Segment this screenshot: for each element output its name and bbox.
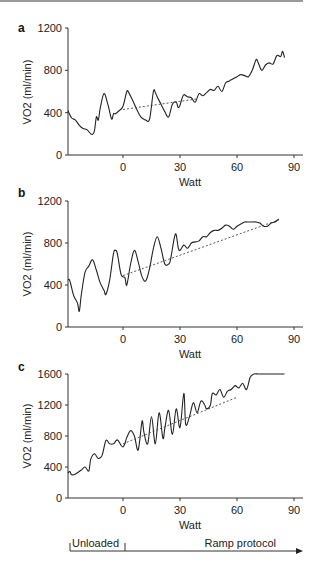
panel-c: c 0 400 800 1200 1600 0 30 60 90 Watt VO… xyxy=(18,360,303,531)
unloaded-label: Unloaded xyxy=(72,537,119,549)
ytick-c-1600: 1600 xyxy=(38,368,62,380)
xtick-a-30: 30 xyxy=(174,161,186,173)
xtick-b-60: 60 xyxy=(231,333,243,345)
panel-a: a 0 400 800 1200 0 30 60 90 Watt VO2 (ml… xyxy=(18,21,303,188)
y-ticks-b: 0 400 800 1200 xyxy=(38,195,68,333)
y-axis-title-a: VO2 (ml/min) xyxy=(21,60,33,125)
ytick-c-0: 0 xyxy=(56,492,62,504)
xtick-b-30: 30 xyxy=(174,333,186,345)
x-ticks-c: 0 30 60 90 xyxy=(120,498,300,516)
protocol-timeline: Unloaded Ramp protocol xyxy=(70,537,303,554)
vo2-curve-b xyxy=(68,219,279,312)
panel-label-b: b xyxy=(18,186,25,200)
y-axis-title-c: VO2 (ml/min) xyxy=(21,404,33,469)
xtick-c-90: 90 xyxy=(288,504,300,516)
x-ticks-a: 0 30 60 90 xyxy=(120,155,300,173)
ytick-a-400: 400 xyxy=(44,107,62,119)
xtick-a-0: 0 xyxy=(120,161,126,173)
xtick-c-30: 30 xyxy=(174,504,186,516)
xtick-c-0: 0 xyxy=(120,504,126,516)
y-ticks-c: 0 400 800 1200 1600 xyxy=(38,368,68,504)
x-axis-title-b: Watt xyxy=(179,348,201,360)
panel-label-c: c xyxy=(18,360,25,374)
panel-label-a: a xyxy=(18,21,25,35)
vo2-curve-a xyxy=(68,51,285,134)
ytick-a-0: 0 xyxy=(56,149,62,161)
xtick-b-0: 0 xyxy=(120,333,126,345)
figure: a 0 400 800 1200 0 30 60 90 Watt VO2 (ml… xyxy=(0,0,320,576)
ytick-b-1200: 1200 xyxy=(38,195,62,207)
ytick-c-800: 800 xyxy=(44,430,62,442)
y-axis-title-b: VO2 (ml/min) xyxy=(21,232,33,297)
arrow-right-icon xyxy=(296,548,303,554)
panel-b: b 0 400 800 1200 0 30 60 90 Watt VO2 (ml… xyxy=(18,186,303,360)
trend-line-b xyxy=(123,220,279,276)
ytick-b-0: 0 xyxy=(56,321,62,333)
ytick-a-800: 800 xyxy=(44,64,62,76)
ytick-c-1200: 1200 xyxy=(38,399,62,411)
xtick-a-90: 90 xyxy=(288,161,300,173)
ytick-a-1200: 1200 xyxy=(38,22,62,34)
x-axis-title-a: Watt xyxy=(179,176,201,188)
xtick-a-60: 60 xyxy=(231,161,243,173)
ramp-protocol-label: Ramp protocol xyxy=(204,537,276,549)
xtick-b-90: 90 xyxy=(288,333,300,345)
y-ticks-a: 0 400 800 1200 xyxy=(38,22,68,161)
ytick-c-400: 400 xyxy=(44,461,62,473)
vo2-curve-c xyxy=(68,374,285,475)
ytick-b-400: 400 xyxy=(44,279,62,291)
xtick-c-60: 60 xyxy=(231,504,243,516)
ytick-b-800: 800 xyxy=(44,237,62,249)
x-axis-title-c: Watt xyxy=(179,519,201,531)
x-ticks-b: 0 30 60 90 xyxy=(120,327,300,345)
